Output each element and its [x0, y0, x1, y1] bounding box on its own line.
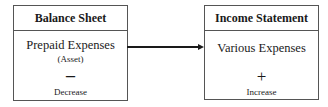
plus-sign-icon: + [205, 68, 318, 85]
various-expenses-title: Various Expenses [205, 41, 318, 56]
arrow-icon [127, 42, 205, 52]
asset-subtitle: (Asset) [14, 54, 127, 64]
income-statement-box: Income Statement Various Expenses + Incr… [204, 5, 319, 100]
prepaid-expenses-title: Prepaid Expenses [14, 38, 127, 53]
increase-label: Increase [205, 87, 318, 97]
decrease-label: Decrease [14, 87, 127, 97]
balance-sheet-header: Balance Sheet [14, 6, 127, 31]
balance-sheet-box: Balance Sheet Prepaid Expenses (Asset) –… [13, 5, 128, 101]
income-statement-header: Income Statement [205, 6, 318, 31]
minus-sign-icon: – [14, 66, 127, 84]
